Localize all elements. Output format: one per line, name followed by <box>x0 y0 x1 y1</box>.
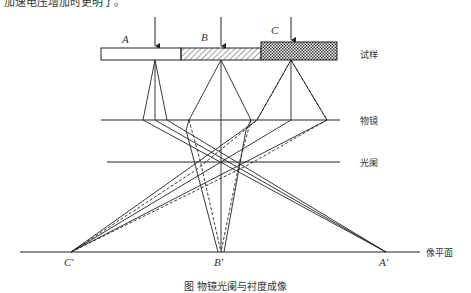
label-objective-lens: 物镜 <box>360 114 378 127</box>
label-point-b: B <box>201 31 208 43</box>
specimen-region-c <box>261 42 337 60</box>
specimen-region-a <box>101 48 181 60</box>
label-point-a: A <box>122 33 129 45</box>
specimen-region-b <box>181 48 261 60</box>
label-aperture: 光阑 <box>360 156 378 169</box>
label-image-a: A′ <box>379 256 388 268</box>
label-image-c: C′ <box>64 256 74 268</box>
label-image-b: B′ <box>214 256 223 268</box>
label-specimen: 试样 <box>360 48 378 61</box>
label-point-c: C <box>271 24 278 36</box>
figure-caption: 图 物镜光阑与衬度成像 <box>0 278 471 293</box>
specimen <box>101 42 337 60</box>
label-image-plane: 像平面 <box>426 246 453 259</box>
